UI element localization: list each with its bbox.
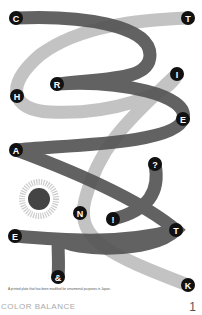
svg-text:T: T: [185, 14, 191, 24]
letter-node: ?: [148, 157, 162, 171]
svg-text:?: ?: [152, 160, 158, 170]
letter-node: !: [106, 212, 120, 226]
letter-node: &: [51, 270, 65, 284]
letter-node: T: [181, 11, 195, 25]
page-number: 1: [189, 300, 196, 314]
svg-text:I: I: [176, 70, 179, 80]
svg-text:A: A: [13, 146, 20, 156]
letter-node: E: [176, 112, 190, 126]
svg-text:&: &: [55, 273, 62, 283]
letter-node: I: [170, 67, 184, 81]
letter-node: T: [169, 223, 183, 237]
letter-node: A: [9, 143, 23, 157]
svg-text:C: C: [13, 14, 20, 24]
sun-icon: [22, 182, 56, 216]
letter-node: N: [73, 206, 87, 220]
svg-text:R: R: [54, 80, 61, 90]
svg-text:K: K: [185, 281, 192, 291]
svg-text:H: H: [14, 92, 21, 102]
caption: A printed plate that has been modified f…: [8, 287, 111, 291]
letter-node: K: [181, 278, 195, 292]
ribbon-artwork: CTRIHEA?N!TE&K: [0, 0, 202, 295]
svg-text:E: E: [12, 232, 18, 242]
svg-text:T: T: [173, 226, 179, 236]
footer-title: COLOR BALANCE: [1, 302, 76, 311]
letter-node: E: [8, 229, 22, 243]
svg-text:N: N: [77, 209, 84, 219]
svg-text:!: !: [112, 215, 115, 225]
svg-text:E: E: [180, 115, 186, 125]
letter-node: H: [10, 89, 24, 103]
letter-node: R: [50, 77, 64, 91]
letter-node: C: [9, 11, 23, 25]
